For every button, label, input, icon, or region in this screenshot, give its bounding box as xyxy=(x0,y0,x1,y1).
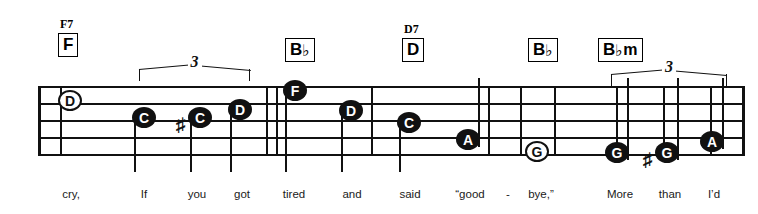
barline xyxy=(276,86,278,156)
chord-box-5: B♭m xyxy=(598,38,643,62)
sharp-accidental-icon: ♯ xyxy=(643,150,653,169)
triplet-bracket-left-tick xyxy=(139,69,140,81)
triplet-bracket-bar xyxy=(139,64,194,70)
notehead-d-6: D xyxy=(339,100,363,121)
notehead-g-10: G xyxy=(605,142,629,163)
notehead-c-2: C xyxy=(132,107,156,128)
notehead-d-1: D xyxy=(58,90,82,111)
staff-line xyxy=(38,103,744,105)
sharp-accidental-icon: ♯ xyxy=(176,115,186,134)
note-stem xyxy=(134,119,136,172)
lyric-word-11: More xyxy=(607,189,633,201)
barline xyxy=(371,86,373,156)
barline xyxy=(266,86,268,156)
staff-line xyxy=(38,154,744,156)
triplet-bracket-left-tick xyxy=(611,74,612,86)
notehead-c-7: C xyxy=(397,112,421,133)
lyric-word-10: bye,” xyxy=(528,189,554,201)
triplet-bracket-bar xyxy=(194,65,249,71)
barline xyxy=(554,86,556,156)
triplet-number: 3 xyxy=(662,59,676,75)
triplet-bracket-bar xyxy=(669,70,727,76)
staff-line xyxy=(38,86,744,88)
note-stem xyxy=(285,92,287,172)
note-stem xyxy=(399,124,401,172)
sheet-music-excerpt: F7FB♭D7DB♭B♭m 33 cry,Ifyougottiredandsai… xyxy=(0,0,758,214)
chord-box-2: B♭ xyxy=(285,38,315,62)
chord-box-1: F xyxy=(58,33,78,57)
triplet-number: 3 xyxy=(188,54,202,70)
chord-superscript: F7 xyxy=(60,18,73,30)
lyric-word-6: and xyxy=(342,189,361,201)
lyric-word-8: “good xyxy=(455,189,484,201)
lyric-word-2: If xyxy=(141,189,147,201)
notehead-g-9: G xyxy=(525,141,549,162)
barline xyxy=(38,86,41,156)
notehead-a-12: A xyxy=(700,131,724,152)
lyric-word-13: I’d xyxy=(708,189,720,201)
triplet-bracket-bar xyxy=(611,69,669,75)
lyric-word-1: cry, xyxy=(62,189,80,201)
lyric-word-9: - xyxy=(506,189,510,201)
notehead-g-11: G xyxy=(655,142,679,163)
barline xyxy=(520,86,522,156)
chord-superscript: D7 xyxy=(404,23,419,35)
triplet-bracket-right-tick xyxy=(726,74,727,86)
triplet-bracket-1: 3 xyxy=(139,57,250,81)
notehead-d-4: D xyxy=(228,99,252,120)
lyric-word-3: you xyxy=(188,189,207,201)
triplet-bracket-right-tick xyxy=(249,69,250,81)
lyric-word-12: than xyxy=(659,189,681,201)
barline xyxy=(488,86,490,156)
chord-box-3: D xyxy=(402,38,424,62)
note-stem xyxy=(230,111,232,172)
barline xyxy=(742,86,745,156)
notehead-c-3: C xyxy=(188,107,212,128)
lyric-word-4: got xyxy=(234,189,250,201)
note-stem xyxy=(190,119,192,172)
staff-line xyxy=(38,137,744,139)
notehead-f-5: F xyxy=(283,80,307,101)
notehead-a-8: A xyxy=(456,129,480,150)
note-stem xyxy=(341,112,343,172)
lyric-word-5: tired xyxy=(283,189,305,201)
chord-box-4: B♭ xyxy=(528,38,558,62)
lyric-word-7: said xyxy=(399,189,420,201)
